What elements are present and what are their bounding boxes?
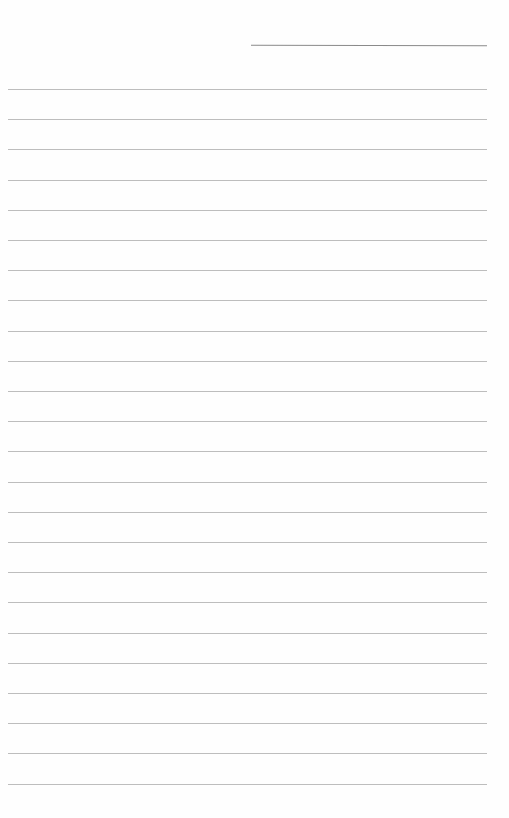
- ruled-line: [8, 723, 487, 724]
- ruled-line: [8, 331, 487, 332]
- ruled-line: [8, 482, 487, 483]
- ruled-line: [8, 361, 487, 362]
- ruled-line: [8, 149, 487, 150]
- ruled-line: [8, 663, 487, 664]
- lined-page: [0, 0, 509, 818]
- ruled-line: [8, 753, 487, 754]
- ruled-line: [8, 300, 487, 301]
- ruled-line: [8, 421, 487, 422]
- header-name-line: [251, 45, 487, 46]
- ruled-line: [8, 512, 487, 513]
- ruled-line: [8, 180, 487, 181]
- ruled-line: [8, 270, 487, 271]
- ruled-line: [8, 240, 487, 241]
- ruled-line: [8, 693, 487, 694]
- ruled-line: [8, 391, 487, 392]
- ruled-line: [8, 633, 487, 634]
- ruled-line: [8, 602, 487, 603]
- ruled-line: [8, 451, 487, 452]
- ruled-line: [8, 784, 487, 785]
- ruled-line: [8, 119, 487, 120]
- ruled-line: [8, 210, 487, 211]
- ruled-line: [8, 572, 487, 573]
- ruled-line: [8, 89, 487, 90]
- ruled-line: [8, 542, 487, 543]
